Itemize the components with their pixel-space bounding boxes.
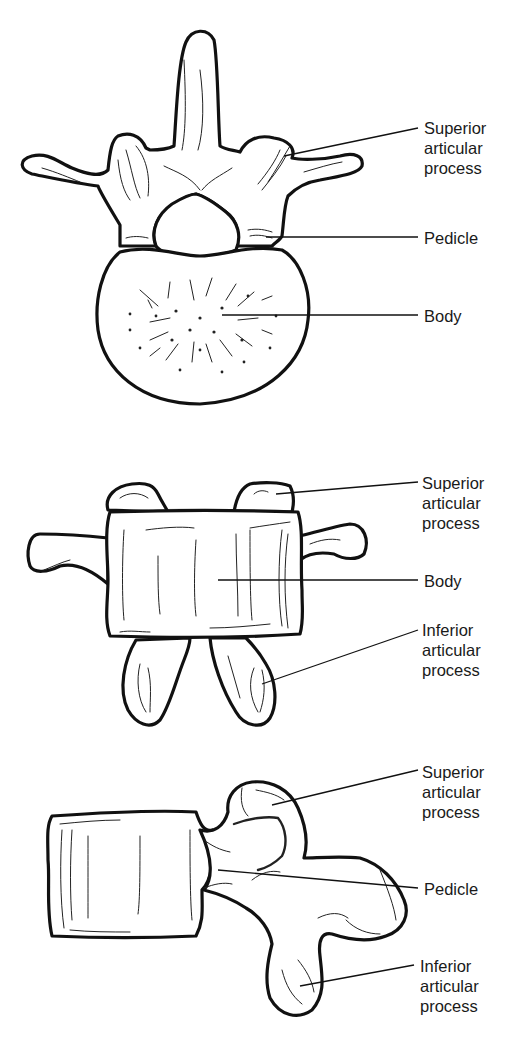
posterior-view-drawing: [28, 482, 418, 725]
label-body-superior-view: Body: [424, 306, 462, 326]
label-inferior-articular-process-posterior-view: Inferior articular process: [422, 620, 481, 680]
label-pedicle-superior-view: Pedicle: [424, 228, 478, 248]
label-inferior-articular-process-lateral-view: Inferior articular process: [420, 956, 479, 1016]
lateral-view-drawing: [48, 770, 418, 1015]
label-body-posterior-view: Body: [424, 571, 462, 591]
label-pedicle-lateral-view: Pedicle: [424, 879, 478, 899]
superior-view-drawing: [22, 31, 418, 404]
label-superior-articular-process-posterior-view: Superior articular process: [422, 473, 484, 533]
label-superior-articular-process-superior-view: Superior articular process: [424, 118, 486, 178]
label-superior-articular-process-lateral-view: Superior articular process: [422, 762, 484, 822]
